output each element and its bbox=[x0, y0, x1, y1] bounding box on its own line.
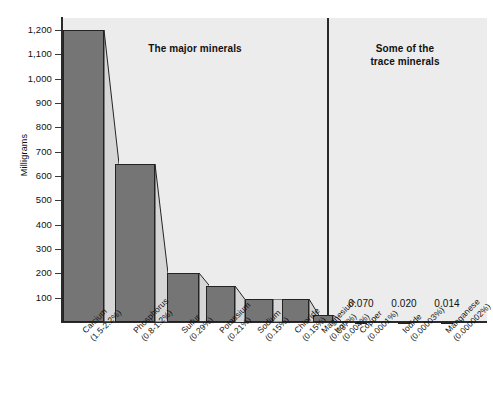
y-axis-tick-label: 1,000 bbox=[0, 73, 52, 84]
y-axis-tick-label: 300 bbox=[0, 243, 52, 254]
y-axis-tick-label: 900 bbox=[0, 97, 52, 108]
y-axis-title: Milligrams bbox=[19, 110, 29, 200]
region-divider-line bbox=[327, 18, 329, 322]
y-axis-tick-label: 1,100 bbox=[0, 48, 52, 59]
bar-calcium bbox=[63, 30, 104, 322]
annotation-trace-minerals: Some of the trace minerals bbox=[345, 42, 465, 68]
bar-phosphorus bbox=[115, 164, 155, 322]
y-axis-tick-label: 400 bbox=[0, 219, 52, 230]
y-axis-tick-label: 1,200 bbox=[0, 24, 52, 35]
annotation-trace-line2: trace minerals bbox=[370, 56, 439, 67]
y-axis-tick-label: 100 bbox=[0, 292, 52, 303]
annotation-trace-line1: Some of the bbox=[376, 43, 434, 54]
y-axis-tick-label: 200 bbox=[0, 267, 52, 278]
annotation-major-minerals: The major minerals bbox=[125, 42, 265, 55]
